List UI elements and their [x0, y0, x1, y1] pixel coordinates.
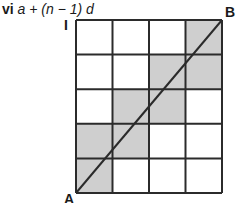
grid-diagram — [0, 0, 236, 203]
shaded-cell — [186, 55, 223, 90]
shaded-cell — [113, 89, 150, 124]
shaded-cell — [149, 89, 186, 124]
shaded-cell — [76, 124, 113, 159]
